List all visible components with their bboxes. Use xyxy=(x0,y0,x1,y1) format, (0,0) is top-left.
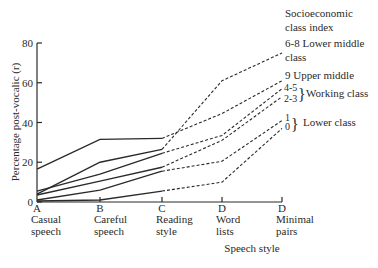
label-upper-middle: 9 Upper middle xyxy=(285,69,354,81)
x-tick-label: Careful xyxy=(94,213,127,225)
series-line-solid xyxy=(37,167,162,195)
x-tick-label: pairs xyxy=(276,225,297,237)
x-tick-label: Word xyxy=(216,213,241,225)
x-tick-label: Minimal xyxy=(276,213,314,225)
label-lower-class: Lower class xyxy=(303,116,356,128)
label-lower-middle-class: class xyxy=(285,51,306,63)
label-2-3: 2-3 xyxy=(284,93,297,104)
line-chart: 020406080 ACasualspeechBCarefulspeechCRe… xyxy=(0,0,378,268)
brace-working: } xyxy=(298,86,306,103)
y-tick-label: 60 xyxy=(22,77,34,89)
y-tick-label: 40 xyxy=(22,117,34,129)
series-line-solid xyxy=(37,191,162,201)
series-line-solid xyxy=(37,153,162,191)
y-tick-label: 80 xyxy=(22,37,34,49)
series-line-dashed xyxy=(162,97,282,168)
series-line-dashed xyxy=(162,128,282,191)
y-axis-label: Percentage post-vocalic (r) xyxy=(9,62,22,181)
brace-lower: } xyxy=(291,116,299,133)
x-tick-label: Reading xyxy=(156,213,193,225)
legend-title-line2: class index xyxy=(285,21,334,33)
label-4-5: 4-5 xyxy=(284,82,297,93)
x-axis: ACasualspeechBCarefulspeechCReadingstyle… xyxy=(31,197,314,237)
series-line-dashed xyxy=(162,89,282,154)
x-tick-label: lists xyxy=(216,225,234,237)
x-tick-label: style xyxy=(156,225,177,237)
y-tick-label: 20 xyxy=(22,156,34,168)
y-axis: 020406080 xyxy=(22,37,42,208)
label-lower-middle: 6-8 Lower middle xyxy=(285,37,365,49)
x-tick-label: speech xyxy=(31,225,61,237)
label-0: 0 xyxy=(285,121,290,132)
series-lines xyxy=(37,53,282,201)
x-tick-label: speech xyxy=(94,225,124,237)
x-axis-label: Speech style xyxy=(224,242,279,254)
label-working-class: Working class xyxy=(306,87,368,99)
x-tick-label: Casual xyxy=(31,213,61,225)
legend-title-line1: Socioeconomic xyxy=(285,7,353,19)
